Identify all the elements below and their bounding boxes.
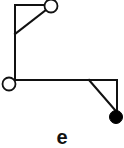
bottom-diagonal-line — [89, 80, 115, 110]
edges — [15, 5, 117, 111]
diagram-label: e — [0, 127, 124, 147]
top-diagonal-line — [15, 10, 46, 34]
right-filled-node — [110, 111, 123, 124]
left-open-node — [3, 78, 16, 91]
top-open-node — [45, 0, 58, 13]
